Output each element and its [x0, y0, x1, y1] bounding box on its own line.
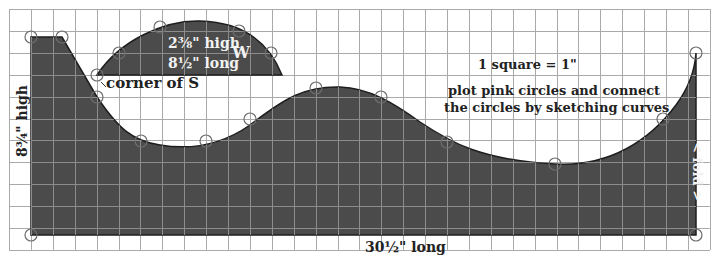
- fold-label: < fold >: [691, 142, 704, 201]
- w-letter-label: W: [232, 45, 250, 61]
- corner-of-s-label: corner of S: [106, 76, 199, 91]
- w-length-label: 8½" long: [168, 56, 239, 70]
- height-label: 8¾" high: [15, 85, 29, 157]
- instructions-line-2: the circles by sketching curves: [444, 101, 669, 114]
- length-label: 30½" long: [365, 240, 446, 254]
- instructions-line-1: plot pink circles and connect: [448, 84, 660, 97]
- w-height-label: 2⅜" high: [168, 36, 240, 50]
- scale-label: 1 square = 1": [478, 58, 577, 71]
- pattern-diagram: [0, 0, 714, 266]
